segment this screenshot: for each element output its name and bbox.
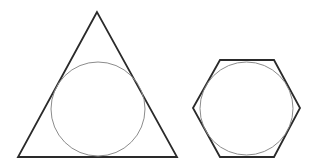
diagram-canvas [0,0,320,166]
background [0,0,320,166]
